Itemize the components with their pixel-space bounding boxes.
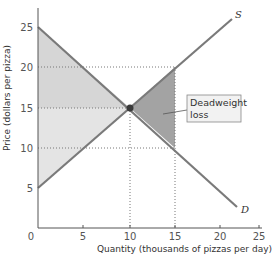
x-tick-25: 25 (253, 231, 266, 242)
supply-label: S (235, 9, 242, 20)
y-tick-20: 20 (20, 62, 33, 73)
y-tick-5: 5 (27, 183, 33, 194)
dwl-label-line1: Deadweight (190, 97, 247, 108)
y-tick-15: 15 (20, 103, 33, 114)
y-axis-title: Price (dollars per pizza) (2, 45, 12, 151)
y-tick-10: 10 (20, 143, 33, 154)
x-axis-title: Quantity (thousands of pizzas per day) (97, 244, 272, 254)
x-tick-20: 20 (214, 231, 227, 242)
origin-label: 0 (28, 231, 34, 242)
x-tick-5: 5 (80, 231, 86, 242)
y-tick-25: 25 (20, 22, 33, 33)
equilibrium-point (127, 105, 134, 112)
deadweight-loss-area (130, 67, 175, 148)
dwl-label-line2: loss (190, 109, 208, 120)
demand-label: D (240, 204, 249, 215)
chart: 0 5 10 15 20 25 5 10 15 20 25 Quantity (… (0, 0, 272, 258)
x-tick-10: 10 (124, 231, 137, 242)
x-tick-15: 15 (169, 231, 182, 242)
